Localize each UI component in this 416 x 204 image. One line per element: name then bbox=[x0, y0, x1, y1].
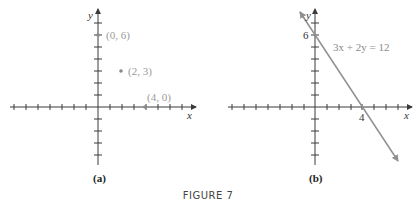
y-axis-label: y bbox=[305, 9, 311, 21]
point-2-3 bbox=[119, 69, 123, 73]
point-label-4-0: (4, 0) bbox=[147, 91, 171, 104]
caption-b: (b) bbox=[309, 172, 323, 185]
point-label-2-3: (2, 3) bbox=[128, 65, 152, 78]
x-intercept-label: 4 bbox=[359, 111, 365, 123]
panel-b: 6 4 x y 3x + 2y = 12 (b) bbox=[228, 9, 412, 185]
panel-a: x y (0, 6) (2, 3) (4, 0) (a) bbox=[10, 9, 196, 185]
point-0-6 bbox=[96, 33, 100, 37]
y-intercept-label: 6 bbox=[303, 29, 309, 41]
caption-a: (a) bbox=[93, 172, 106, 185]
figure-title: FIGURE 7 bbox=[183, 190, 234, 201]
point-4-0 bbox=[143, 105, 147, 109]
x-axis-label: x bbox=[186, 109, 192, 121]
figure-7: x y (0, 6) (2, 3) (4, 0) (a) bbox=[0, 0, 416, 204]
y-axis-label: y bbox=[87, 9, 93, 21]
equation-label: 3x + 2y = 12 bbox=[333, 41, 389, 53]
point-label-0-6: (0, 6) bbox=[106, 29, 130, 42]
x-axis-label: x bbox=[403, 109, 409, 121]
equation-line-start-arrow bbox=[300, 12, 304, 18]
